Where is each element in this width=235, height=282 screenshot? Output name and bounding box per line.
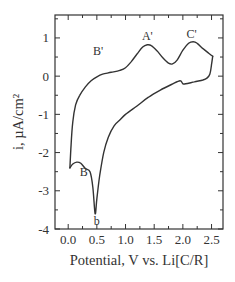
axis-ticks: 0.00.51.01.52.02.5-4-3-2-101 [38,15,223,247]
y-tick-label: -4 [38,222,49,237]
anodic-sweep-curve [70,42,213,168]
x-tick-label: 2.0 [175,232,191,247]
y-tick-label: -1 [38,107,49,122]
peak-label-c-prime: C' [186,27,196,41]
x-tick-label: 1.5 [146,232,162,247]
y-axis-label: i, µA/cm² [10,93,26,150]
x-tick-label: 2.5 [203,232,219,247]
peak-label-b: B [80,165,88,179]
x-axis-label: Potential, V vs. Li[C/R] [70,252,208,268]
y-tick-label: 0 [43,69,50,84]
data-curves [70,42,213,214]
x-tick-label: 0.5 [89,232,105,247]
y-tick-label: -3 [38,183,49,198]
peak-label-b-lower: b [94,214,100,228]
plot-frame [55,15,223,229]
y-tick-label: -2 [38,145,49,160]
cyclic-voltammogram-chart: 0.00.51.01.52.02.5-4-3-2-101 A'C'B'Bb Po… [0,0,235,282]
peak-label-a-prime: A' [142,29,153,43]
x-tick-label: 1.0 [117,232,133,247]
y-tick-label: 1 [43,30,50,45]
x-tick-label: 0.0 [60,232,76,247]
peak-label-b-prime: B' [93,44,103,58]
